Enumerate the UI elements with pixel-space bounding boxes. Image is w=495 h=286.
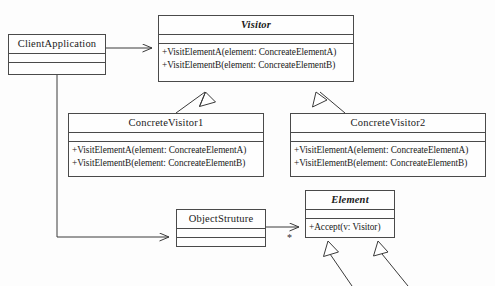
class-operations-visitor: +VisitElementA(element: ConcreateElement… bbox=[159, 44, 353, 74]
class-attributes-client-application bbox=[9, 54, 105, 63]
class-name-visitor: Visitor bbox=[159, 16, 353, 35]
generalization-triangle bbox=[324, 241, 339, 257]
class-attributes-concrete-visitor-1 bbox=[69, 133, 263, 142]
class-box-element[interactable]: Element +Accept(v: Visitor) bbox=[305, 190, 395, 238]
operation-visitelementa: +VisitElementA(element: ConcreateElement… bbox=[162, 46, 350, 59]
edge-concretevisitor1-to-visitor bbox=[176, 92, 216, 113]
uml-class-diagram: g g bbox=[0, 0, 495, 286]
generalization-triangle bbox=[374, 241, 389, 256]
class-box-concrete-visitor-2[interactable]: ConcreteVisitor2 +VisitElementA(element:… bbox=[290, 113, 486, 177]
generalization-triangle bbox=[313, 92, 328, 107]
operation-visitelementb: +VisitElementB(element: ConcreateElement… bbox=[162, 59, 350, 72]
class-name-concrete-visitor-1: ConcreteVisitor1 bbox=[69, 114, 263, 133]
class-box-visitor[interactable]: Visitor +VisitElementA(element: Concreat… bbox=[158, 15, 354, 82]
class-name-object-struture: ObjectStruture bbox=[177, 210, 265, 229]
class-attributes-concrete-visitor-2 bbox=[291, 133, 485, 142]
multiplicity-label-element: * bbox=[287, 233, 292, 243]
edge-concreteelementa-to-element bbox=[324, 241, 353, 286]
operation-accept: +Accept(v: Visitor) bbox=[309, 221, 391, 234]
class-name-client-application: ClientApplication bbox=[9, 35, 105, 54]
class-box-concrete-visitor-1[interactable]: ConcreteVisitor1 +VisitElementA(element:… bbox=[68, 113, 264, 177]
class-name-element: Element bbox=[306, 191, 394, 210]
class-operations-concrete-visitor-1: +VisitElementA(element: ConcreateElement… bbox=[69, 142, 263, 172]
class-name-concrete-visitor-2: ConcreteVisitor2 bbox=[291, 114, 485, 133]
operation-visitelementa: +VisitElementA(element: ConcreateElement… bbox=[294, 144, 482, 157]
class-box-object-struture[interactable]: ObjectStruture bbox=[176, 209, 266, 247]
class-operations-element: +Accept(v: Visitor) bbox=[306, 219, 394, 237]
class-operations-concrete-visitor-2: +VisitElementA(element: ConcreateElement… bbox=[291, 142, 485, 172]
edge-concretevisitor2-to-visitor bbox=[313, 92, 346, 113]
class-attributes-element bbox=[306, 210, 394, 219]
class-box-client-application[interactable]: ClientApplication bbox=[8, 34, 106, 75]
class-operations-object-struture bbox=[177, 238, 265, 252]
class-operations-client-application bbox=[9, 63, 105, 77]
operation-visitelementa: +VisitElementA(element: ConcreateElement… bbox=[72, 144, 260, 157]
operation-visitelementb: +VisitElementB(element: ConcreateElement… bbox=[294, 157, 482, 170]
operation-visitelementb: +VisitElementB(element: ConcreateElement… bbox=[72, 157, 260, 170]
class-attributes-visitor bbox=[159, 35, 353, 44]
generalization-triangle bbox=[200, 92, 216, 107]
edge-concreteelementb-to-element bbox=[374, 241, 409, 286]
class-attributes-object-struture bbox=[177, 229, 265, 238]
